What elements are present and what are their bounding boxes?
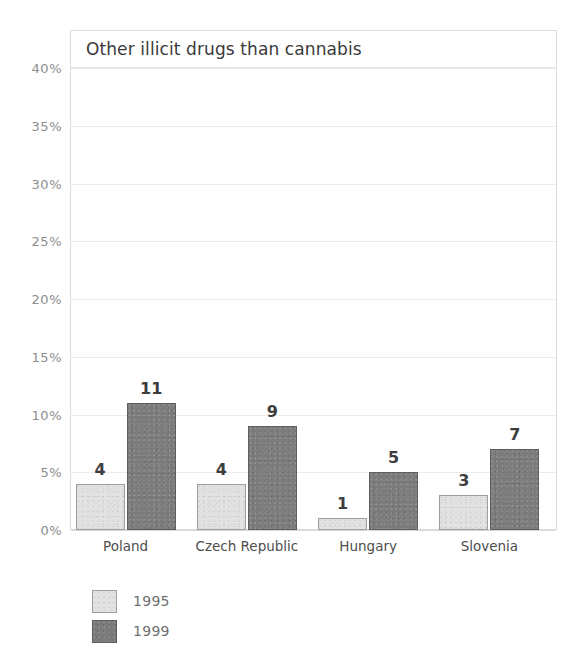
- bar-1999-hungary[interactable]: [369, 472, 418, 530]
- y-axis-tick-label: 10%: [2, 407, 62, 422]
- x-axis-tick-label: Poland: [103, 538, 148, 554]
- legend-item[interactable]: 1999: [92, 616, 170, 646]
- x-axis-tick-label: Hungary: [339, 538, 397, 554]
- page-title: Other illicit drugs than cannabis: [70, 39, 362, 59]
- legend-label: 1995: [133, 593, 170, 609]
- bar-value-label: 9: [267, 402, 278, 421]
- bar-1995-slovenia[interactable]: [439, 495, 488, 530]
- y-axis-tick-label: 15%: [2, 349, 62, 364]
- bar-value-label: 1: [337, 494, 348, 513]
- bar-value-label: 11: [140, 379, 162, 398]
- legend-item[interactable]: 1995: [92, 586, 170, 616]
- bar-group: 49: [192, 68, 313, 530]
- bar-1999-slovenia[interactable]: [490, 449, 539, 530]
- bar-chart-figure: Other illicit drugs than cannabis 40%35%…: [0, 0, 578, 661]
- y-axis-tick-label: 5%: [2, 465, 62, 480]
- x-axis-tick-label: Czech Republic: [195, 538, 298, 554]
- chart-title-band: Other illicit drugs than cannabis: [70, 30, 557, 68]
- y-axis-tick-label: 35%: [2, 118, 62, 133]
- legend-label: 1999: [133, 623, 170, 639]
- legend-swatch-icon: [92, 620, 117, 643]
- y-axis-tick-label: 40%: [2, 61, 62, 76]
- bar-value-label: 4: [216, 460, 227, 479]
- legend-swatch-icon: [92, 590, 117, 613]
- gridline: [71, 530, 556, 531]
- bar-value-label: 3: [458, 471, 469, 490]
- bar-1995-czech-republic[interactable]: [197, 484, 246, 530]
- bars-layer: 411491537: [71, 68, 556, 530]
- x-axis-tick-label: Slovenia: [461, 538, 518, 554]
- bar-group: 37: [435, 68, 556, 530]
- bar-value-label: 4: [95, 460, 106, 479]
- bar-group: 15: [314, 68, 435, 530]
- bar-1995-poland[interactable]: [76, 484, 125, 530]
- chart-legend: 19951999: [92, 586, 170, 646]
- y-axis: 40%35%30%25%20%15%10%5%0%: [0, 68, 62, 530]
- y-axis-tick-label: 30%: [2, 176, 62, 191]
- y-axis-tick-label: 25%: [2, 234, 62, 249]
- bar-value-label: 7: [509, 425, 520, 444]
- y-axis-tick-label: 0%: [2, 523, 62, 538]
- bar-1999-poland[interactable]: [127, 403, 176, 530]
- bar-1999-czech-republic[interactable]: [248, 426, 297, 530]
- x-axis: PolandCzech RepublicHungarySlovenia: [71, 538, 556, 562]
- y-axis-tick-label: 20%: [2, 292, 62, 307]
- bar-value-label: 5: [388, 448, 399, 467]
- bar-1995-hungary[interactable]: [318, 518, 367, 530]
- bar-group: 411: [71, 68, 192, 530]
